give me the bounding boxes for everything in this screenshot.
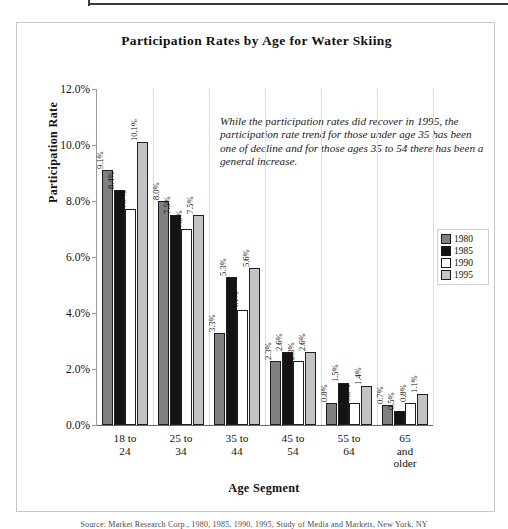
bar-value-label: 2.6% <box>297 334 307 352</box>
bar-value-label: 1.5% <box>330 364 340 382</box>
x-axis-category-label: 55 to64 <box>321 432 377 457</box>
plot-right-edge <box>433 89 434 425</box>
bar[interactable]: 2.6% <box>282 352 293 425</box>
bar-value-label: 1.1% <box>409 376 419 394</box>
category-separator <box>377 89 378 425</box>
x-axis-category-label: 35 to44 <box>209 432 265 457</box>
legend-item[interactable]: 1995 <box>441 269 486 281</box>
bar-value-label: 0.5% <box>386 392 396 410</box>
legend-item-label: 1985 <box>454 246 473 256</box>
x-axis-title: Age Segment <box>96 481 432 496</box>
bar[interactable]: 2.3% <box>293 361 304 425</box>
bar[interactable]: 8.0% <box>158 201 169 425</box>
bar[interactable]: 7.5% <box>170 215 181 425</box>
legend-item[interactable]: 1980 <box>441 233 486 245</box>
x-axis-category-line: 64 <box>321 445 377 458</box>
y-axis-tick-label: 6.0% <box>66 251 90 263</box>
legend-swatch-icon <box>441 246 451 256</box>
bar[interactable]: 7.5% <box>193 215 204 425</box>
legend-item-label: 1990 <box>454 258 473 268</box>
x-axis-category-line: 25 to <box>153 432 209 445</box>
plot-area: 0.0%2.0%4.0%6.0%8.0%10.0%12.0%9.1%8.4%7.… <box>96 89 433 426</box>
bar[interactable]: 10.1% <box>137 142 148 425</box>
page-top-rule-cap <box>88 0 90 6</box>
legend-item[interactable]: 1990 <box>441 257 486 269</box>
bar-group: 0.8%1.5%0.8%1.4%55 to64 <box>321 89 377 425</box>
bar-value-label: 7.7% <box>117 191 127 209</box>
bar[interactable]: 3.3% <box>214 333 225 425</box>
x-axis-category-line: older <box>377 457 433 470</box>
chart-figure: Participation Rates by Age for Water Ski… <box>16 22 495 512</box>
bar[interactable]: 9.1% <box>102 170 113 425</box>
x-axis-category-line: 18 to <box>97 432 153 445</box>
category-separator <box>321 89 322 425</box>
y-axis-tick-label: 0.0% <box>66 419 90 431</box>
chart-title: Participation Rates by Age for Water Ski… <box>17 33 496 49</box>
legend-item-label: 1995 <box>454 270 473 280</box>
y-axis-tick-label: 12.0% <box>60 83 90 95</box>
legend-swatch-icon <box>441 234 451 244</box>
bar-group: 2.3%2.6%2.3%2.6%45 to54 <box>265 89 321 425</box>
bar[interactable]: 7.7% <box>125 209 136 425</box>
bar-value-label: 2.3% <box>262 342 272 360</box>
bar-value-label: 0.8% <box>318 384 328 402</box>
legend-item-label: 1980 <box>454 234 473 244</box>
bar-group: 3.3%5.3%4.1%5.6%35 to44 <box>209 89 265 425</box>
bar-value-label: 8.0% <box>150 182 160 200</box>
category-separator <box>153 89 154 425</box>
bar[interactable]: 8.4% <box>114 190 125 425</box>
bar[interactable]: 0.8% <box>326 403 337 425</box>
bar-value-label: 2.6% <box>274 334 284 352</box>
bar[interactable]: 1.1% <box>417 394 428 425</box>
bar-group: 9.1%8.4%7.7%10.1%18 to24 <box>97 89 153 425</box>
x-axis-category-label: 45 to54 <box>265 432 321 457</box>
bar[interactable]: 7.0% <box>181 229 192 425</box>
page-source-caption: Source: Market Research Corp., 1980, 198… <box>0 520 508 529</box>
x-axis-category-line: 44 <box>209 445 265 458</box>
y-axis-tick-label: 10.0% <box>60 139 90 151</box>
bar[interactable]: 5.6% <box>249 268 260 425</box>
bar-value-label: 2.3% <box>285 342 295 360</box>
x-axis-category-label: 65andolder <box>377 432 433 470</box>
bar-group: 8.0%7.5%7.0%7.5%25 to34 <box>153 89 209 425</box>
legend-swatch-icon <box>441 270 451 280</box>
y-axis-tick-label: 2.0% <box>66 363 90 375</box>
x-axis-category-line: 54 <box>265 445 321 458</box>
bar-value-label: 7.5% <box>162 196 172 214</box>
bar-value-label: 0.7% <box>374 387 384 405</box>
bar-value-label: 7.0% <box>173 210 183 228</box>
bar[interactable]: 0.8% <box>349 403 360 425</box>
bar-value-label: 3.3% <box>206 314 216 332</box>
y-axis-tick-label: 8.0% <box>66 195 90 207</box>
x-axis-category-line: 45 to <box>265 432 321 445</box>
bar-value-label: 4.1% <box>229 292 239 310</box>
bar-value-label: 5.3% <box>218 258 228 276</box>
page-top-rule <box>88 3 508 5</box>
bar-value-label: 9.1% <box>94 152 104 170</box>
bar-value-label: 5.6% <box>241 250 251 268</box>
bar[interactable]: 2.6% <box>305 352 316 425</box>
bar[interactable]: 0.5% <box>394 411 405 425</box>
bar-value-label: 0.8% <box>341 384 351 402</box>
bar-value-label: 8.4% <box>106 171 116 189</box>
legend-item[interactable]: 1985 <box>441 245 486 257</box>
bar[interactable]: 4.1% <box>237 310 248 425</box>
x-axis-category-line: 34 <box>153 445 209 458</box>
y-axis-tick-label: 4.0% <box>66 307 90 319</box>
x-axis-category-line: and <box>377 445 433 458</box>
y-axis-title: Participation Rate <box>46 73 61 233</box>
x-axis-category-line: 65 <box>377 432 433 445</box>
y-axis-tick <box>92 425 97 426</box>
bar[interactable]: 1.4% <box>361 386 372 425</box>
legend-swatch-icon <box>441 258 451 268</box>
category-separator <box>265 89 266 425</box>
bar-value-label: 7.5% <box>185 196 195 214</box>
bar-group: 0.7%0.5%0.8%1.1%65andolder <box>377 89 433 425</box>
x-axis-category-line: 55 to <box>321 432 377 445</box>
bar-value-label: 0.8% <box>397 384 407 402</box>
bar[interactable]: 0.8% <box>405 403 416 425</box>
bar[interactable]: 2.3% <box>270 361 281 425</box>
category-separator <box>209 89 210 425</box>
x-axis-category-label: 18 to24 <box>97 432 153 457</box>
x-axis-category-label: 25 to34 <box>153 432 209 457</box>
